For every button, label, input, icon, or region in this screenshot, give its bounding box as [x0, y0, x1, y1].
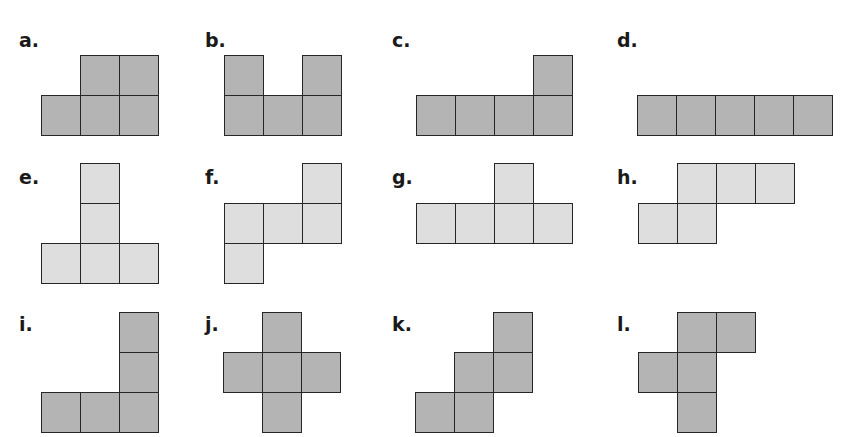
pentomino-square — [637, 95, 677, 136]
pentomino-square — [263, 95, 303, 136]
pentomino-square — [533, 95, 573, 136]
pentomino-square — [533, 55, 573, 96]
pentomino-label: c. — [392, 31, 410, 50]
pentomino-square — [80, 163, 120, 204]
pentomino-square — [494, 203, 534, 244]
pentomino-square — [302, 163, 342, 204]
pentomino-square — [119, 392, 159, 433]
pentomino-square — [454, 392, 494, 433]
pentomino-square — [455, 95, 495, 136]
pentomino-square — [677, 352, 717, 393]
pentomino-square — [301, 352, 341, 393]
pentomino-square — [224, 95, 264, 136]
pentomino-square — [302, 95, 342, 136]
pentomino-square — [41, 95, 81, 136]
pentomino-square — [262, 352, 302, 393]
pentomino-label: d. — [617, 31, 638, 50]
pentomino-square — [676, 95, 716, 136]
pentomino-square — [677, 163, 717, 204]
pentomino-label: k. — [392, 315, 412, 334]
pentomino-square — [80, 203, 120, 244]
pentomino-label: f. — [205, 168, 219, 187]
pentomino-square — [793, 95, 833, 136]
pentomino-square — [41, 243, 81, 284]
pentomino-square — [493, 312, 533, 353]
pentomino-square — [677, 392, 717, 433]
pentomino-label: l. — [617, 315, 631, 334]
pentomino-square — [416, 203, 456, 244]
pentomino-square — [262, 392, 302, 433]
pentomino-square — [224, 203, 264, 244]
pentomino-square — [415, 392, 455, 433]
pentomino-square — [493, 352, 533, 393]
pentomino-square — [754, 95, 794, 136]
pentomino-label: a. — [19, 31, 39, 50]
pentomino-square — [119, 352, 159, 393]
pentomino-square — [494, 95, 534, 136]
pentomino-square — [716, 312, 756, 353]
pentomino-square — [302, 55, 342, 96]
pentomino-square — [677, 203, 717, 244]
pentomino-square — [119, 243, 159, 284]
pentomino-square — [494, 163, 534, 204]
pentomino-label: e. — [19, 168, 39, 187]
pentomino-square — [223, 352, 263, 393]
pentomino-square — [263, 203, 303, 244]
pentomino-label: b. — [205, 31, 226, 50]
pentomino-square — [224, 55, 264, 96]
pentomino-square — [119, 312, 159, 353]
pentomino-square — [119, 95, 159, 136]
pentomino-label: j. — [205, 315, 219, 334]
pentomino-square — [755, 163, 795, 204]
pentomino-square — [638, 352, 678, 393]
pentomino-square — [80, 55, 120, 96]
pentomino-square — [533, 203, 573, 244]
pentomino-square — [302, 203, 342, 244]
pentomino-square — [716, 163, 756, 204]
pentomino-label: i. — [19, 315, 33, 334]
pentomino-square — [80, 95, 120, 136]
pentomino-label: h. — [617, 168, 638, 187]
pentomino-square — [455, 203, 495, 244]
pentomino-square — [119, 55, 159, 96]
pentomino-square — [80, 243, 120, 284]
pentomino-square — [454, 352, 494, 393]
pentomino-square — [677, 312, 717, 353]
pentomino-square — [80, 392, 120, 433]
pentomino-square — [224, 243, 264, 284]
pentomino-square — [416, 95, 456, 136]
pentomino-figure: a.b.c.d.e.f.g.h.i.j.k.l. — [0, 0, 843, 437]
pentomino-square — [262, 312, 302, 353]
pentomino-label: g. — [392, 168, 413, 187]
pentomino-square — [41, 392, 81, 433]
pentomino-square — [715, 95, 755, 136]
pentomino-square — [638, 203, 678, 244]
